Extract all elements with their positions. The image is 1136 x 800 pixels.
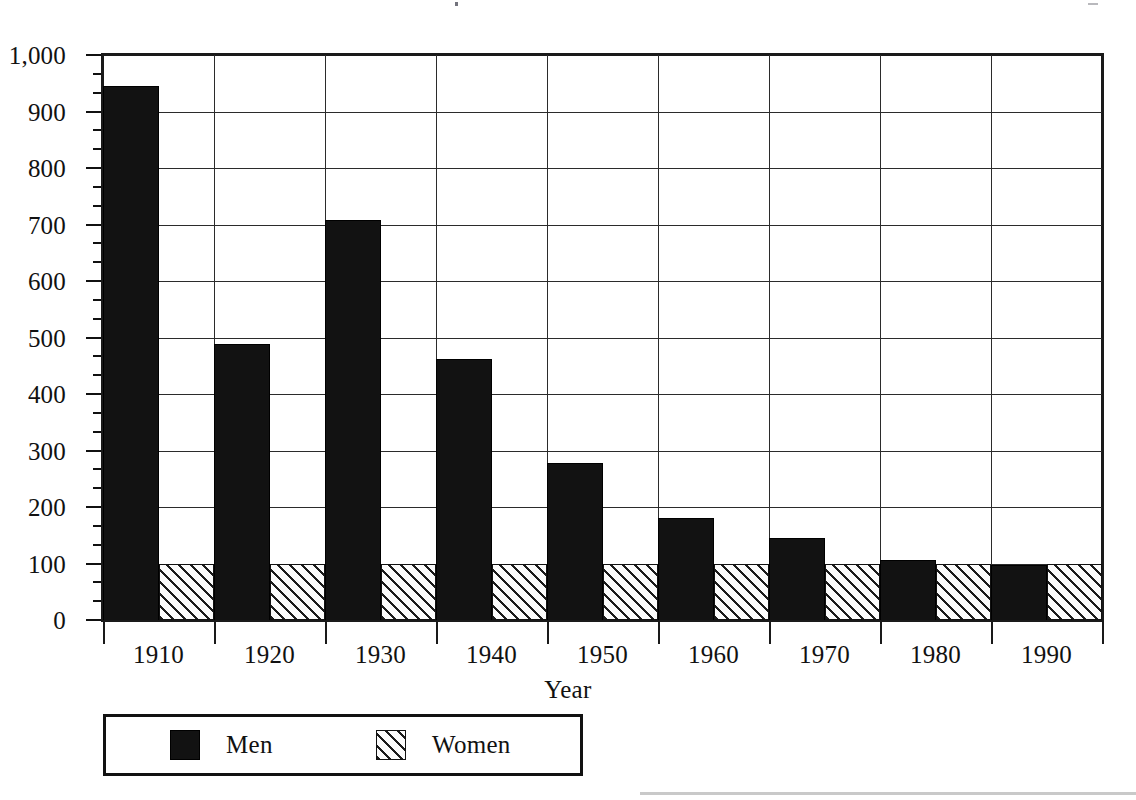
- bar-women-1990: [1047, 564, 1103, 621]
- legend-item-men: Men: [170, 730, 273, 760]
- bar-men-1920: [214, 344, 270, 620]
- bar-men-1930: [325, 220, 381, 620]
- x-axis-tick-label: 1940: [466, 640, 517, 670]
- bar-women-1960: [714, 564, 770, 621]
- chart-legend: Men Women: [103, 714, 583, 776]
- x-axis-title: Year: [0, 676, 1136, 704]
- y-axis-major-tick: [86, 563, 102, 565]
- legend-entries: Men Women: [106, 717, 580, 773]
- y-axis-tick-label: 0: [53, 608, 66, 633]
- diagonal-hatch-swatch-icon: [376, 730, 406, 760]
- bar-chart-figure: 01002003004005006007008009001,000 191019…: [0, 0, 1136, 800]
- bar-women-1940: [492, 564, 548, 621]
- x-axis-tick-label: 1910: [133, 640, 184, 670]
- bar-men-1980: [880, 560, 936, 620]
- y-axis-major-tick: [86, 337, 102, 339]
- scan-artifact: [455, 2, 458, 6]
- y-axis-major-tick: [86, 224, 102, 226]
- legend-label-men: Men: [226, 731, 273, 759]
- legend-label-women: Women: [432, 731, 511, 759]
- y-axis-tick-label: 1,000: [9, 43, 66, 68]
- x-axis-tick-labels: 191019201930194019501960197019801990: [103, 640, 1102, 680]
- y-axis-tick-label: 100: [28, 551, 66, 576]
- bar-women-1920: [270, 564, 326, 621]
- bar-men-1940: [436, 359, 492, 620]
- bar-men-1910: [103, 86, 159, 620]
- bar-men-1990: [991, 565, 1047, 620]
- bar-women-1970: [825, 564, 881, 621]
- bar-layer: [103, 55, 1102, 620]
- bar-women-1930: [381, 564, 437, 621]
- x-axis-tick-label: 1960: [688, 640, 739, 670]
- y-axis-major-tick: [86, 280, 102, 282]
- y-axis-major-tick: [86, 506, 102, 508]
- y-axis-major-tick: [86, 54, 102, 56]
- page-edge-artifact: [640, 792, 1136, 795]
- bar-women-1910: [159, 564, 215, 621]
- x-axis-tick-label: 1990: [1021, 640, 1072, 670]
- y-axis-major-tick: [86, 619, 102, 621]
- legend-item-women: Women: [376, 730, 511, 760]
- x-axis-tick-label: 1920: [244, 640, 295, 670]
- y-axis-tick-label: 600: [28, 269, 66, 294]
- y-axis-major-tick: [86, 111, 102, 113]
- y-axis-tick-label: 700: [28, 212, 66, 237]
- y-axis-major-tick: [86, 393, 102, 395]
- bar-women-1950: [603, 564, 659, 621]
- x-axis-tick-label: 1970: [799, 640, 850, 670]
- y-axis-tick-label: 400: [28, 382, 66, 407]
- x-axis-tick: [1102, 620, 1104, 644]
- scan-artifact: [1088, 3, 1098, 5]
- bar-men-1970: [769, 538, 825, 620]
- bar-men-1960: [658, 518, 714, 620]
- y-axis-major-tick: [86, 167, 102, 169]
- x-axis-tick-label: 1930: [355, 640, 406, 670]
- y-axis-tick-label: 800: [28, 156, 66, 181]
- y-axis-tick-label: 200: [28, 495, 66, 520]
- y-axis-tick-label: 500: [28, 325, 66, 350]
- y-axis-tick-label: 300: [28, 438, 66, 463]
- y-axis-tick-label: 900: [28, 99, 66, 124]
- x-axis-tick-label: 1980: [910, 640, 961, 670]
- y-axis-major-tick: [86, 450, 102, 452]
- plot-area: [103, 55, 1102, 620]
- solid-black-swatch-icon: [170, 730, 200, 760]
- bar-women-1980: [936, 564, 992, 621]
- bar-men-1950: [547, 463, 603, 620]
- x-axis-tick-label: 1950: [577, 640, 628, 670]
